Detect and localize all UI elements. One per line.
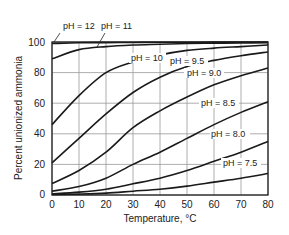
leader-line-ph12 — [54, 33, 60, 42]
curve-label-ph12: pH = 12 — [63, 21, 95, 31]
y-tick-label: 0 — [39, 189, 45, 200]
x-tick-label: 10 — [73, 199, 85, 210]
y-tick-label: 80 — [34, 67, 46, 78]
x-tick-label: 40 — [154, 199, 166, 210]
x-tick-label: 70 — [235, 199, 247, 210]
curve-label-ph11: pH = 11 — [101, 21, 132, 31]
curve-label-ph95: pH = 9.5 — [170, 56, 204, 66]
curve-label-ph85: pH = 8.5 — [201, 98, 235, 108]
curve-label-ph75: pH = 7.5 — [223, 158, 257, 168]
y-tick-label: 20 — [34, 159, 46, 170]
curve-label-ph80: pH = 8.0 — [211, 129, 245, 139]
x-tick-label: 80 — [262, 199, 274, 210]
x-tick-label: 20 — [100, 199, 112, 210]
x-axis-label: Temperature, °C — [124, 213, 197, 224]
curve-label-ph90: pH = 9.0 — [187, 68, 221, 78]
x-tick-label: 60 — [208, 199, 220, 210]
ammonia-chart: 0 20 40 60 80 100 0 10 20 30 40 50 60 70… — [0, 0, 289, 235]
curve-label-ph10: pH = 10 — [131, 53, 163, 63]
x-tick-label: 30 — [127, 199, 139, 210]
y-tick-label: 40 — [34, 128, 46, 139]
y-tick-label: 100 — [28, 37, 45, 48]
y-tick-label: 60 — [34, 98, 46, 109]
x-tick-label: 0 — [49, 199, 55, 210]
y-axis-label: Percent unionized ammonia — [13, 56, 24, 180]
grid-lines — [52, 42, 268, 195]
leader-line-ph11 — [97, 33, 105, 47]
x-tick-label: 50 — [181, 199, 193, 210]
